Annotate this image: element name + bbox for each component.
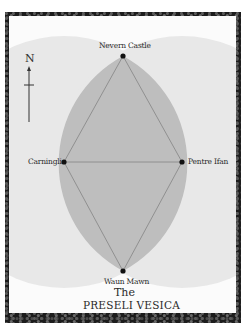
map-title: PRESELI VESICA <box>83 300 180 311</box>
point-waun-mawn[interactable] <box>120 268 125 273</box>
compass-north-label: N <box>25 53 35 64</box>
point-carningli[interactable] <box>61 159 66 164</box>
label-nevern-castle: Nevern Castle <box>99 42 151 50</box>
label-pentre-ifan: Pentre Ifan <box>188 158 228 166</box>
label-carningli: Carningli <box>28 158 62 166</box>
label-waun-mawn: Waun Mawn <box>104 278 149 286</box>
point-pentre-ifan[interactable] <box>179 159 184 164</box>
point-nevern-castle[interactable] <box>120 53 125 58</box>
title-line-1: The <box>114 287 135 298</box>
